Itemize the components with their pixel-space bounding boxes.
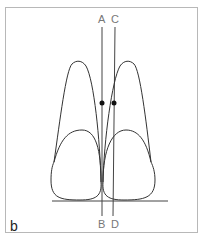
label-a: A (98, 14, 105, 25)
left-tooth-outline (54, 61, 101, 182)
tooth-diagram (0, 0, 202, 240)
line-cd (113, 27, 115, 216)
right-tooth-outline (103, 61, 151, 182)
contact-point-left (100, 101, 105, 106)
left-crown-outline (51, 130, 101, 200)
contact-point-right (112, 101, 117, 106)
label-c: C (111, 14, 119, 25)
label-d: D (111, 219, 119, 230)
label-b: B (98, 219, 105, 230)
panel-label: b (10, 218, 18, 234)
right-crown-outline (103, 130, 155, 200)
